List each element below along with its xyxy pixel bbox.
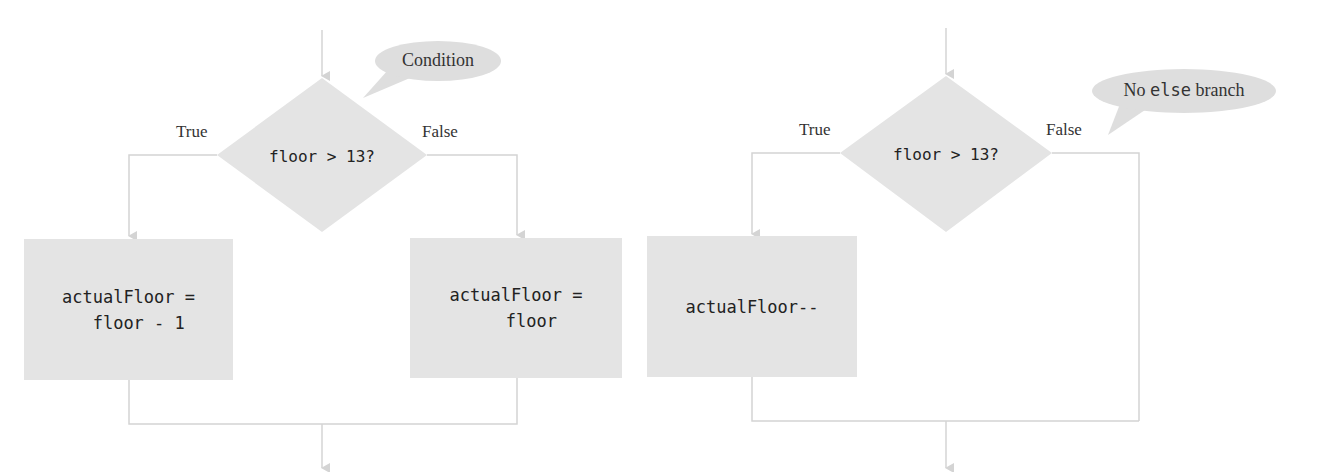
left-merge-connector [129, 378, 517, 424]
no-else-callout-text: No else branch [1124, 80, 1245, 101]
condition-callout-text: Condition [402, 50, 474, 71]
no-else-callout-prefix: No [1124, 80, 1151, 100]
right-true-label: True [799, 120, 831, 140]
right-decision-text: floor > 13? [893, 145, 999, 164]
left-false-connector [427, 155, 517, 235]
right-merge-connector [752, 377, 1139, 421]
no-else-callout-keyword: else [1150, 80, 1191, 100]
left-true-label: True [176, 122, 208, 142]
left-true-connector [129, 155, 217, 236]
right-true-action-text: actualFloor-- [685, 294, 818, 320]
right-true-action-box: actualFloor-- [647, 236, 857, 377]
left-true-action-box: actualFloor = floor - 1 [24, 239, 233, 380]
left-false-action-box: actualFloor = floor [410, 238, 622, 378]
left-false-label: False [422, 122, 458, 142]
left-decision-text: floor > 13? [269, 147, 375, 166]
right-true-connector [752, 153, 840, 234]
left-true-action-text: actualFloor = floor - 1 [62, 284, 195, 336]
left-false-action-text: actualFloor = floor [449, 282, 582, 334]
right-false-connector [1052, 153, 1139, 421]
no-else-callout-suffix: branch [1191, 80, 1244, 100]
right-false-label: False [1046, 120, 1082, 140]
